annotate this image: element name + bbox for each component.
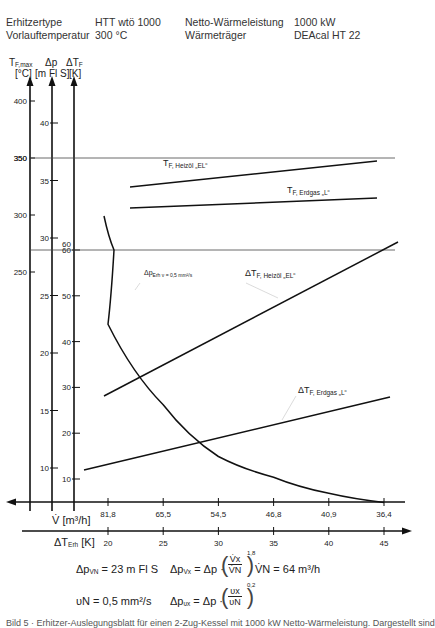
tick-label-dt-erh-25: 25 xyxy=(159,539,168,548)
tick-label-dp-35: 35 xyxy=(40,177,49,186)
tick-label-flow-0: 81,8 xyxy=(100,510,116,519)
formula-dp-vn: ΔpVN = 23 m Fl S xyxy=(76,563,158,575)
tick-label-dtf-50: 50 xyxy=(62,292,71,301)
tick-label-dt-erh-35: 35 xyxy=(269,539,278,548)
reference-label-350: 350 xyxy=(14,154,28,163)
formula-dp-nux: Δpυx = Δp · xyxy=(170,595,223,607)
tick-label-dp-10: 10 xyxy=(40,464,49,473)
series-line-3 xyxy=(104,242,398,396)
tick-label-dtf-40: 40 xyxy=(62,338,71,347)
x-axis-dt-erh-arrow xyxy=(402,528,412,535)
series-label-0: TF, Heizöl „EL“ xyxy=(163,158,208,169)
tick-label-flow-1: 65,5 xyxy=(155,510,171,519)
tick-label-dp-20: 20 xyxy=(40,349,49,358)
tick-label-dt-erh-45: 45 xyxy=(380,539,389,548)
tick-label-dt-erh-30: 30 xyxy=(214,539,223,548)
tick-label-flow-2: 54,5 xyxy=(211,510,227,519)
axis-title-dt-erh: ΔTErh [K] xyxy=(54,536,95,551)
series-line-1 xyxy=(130,198,377,208)
tick-label-flow-5: 36,4 xyxy=(376,510,392,519)
axis-title-flow: V̇ [m³/h] xyxy=(52,514,91,526)
tick-label-dtf-20: 20 xyxy=(62,429,71,438)
series-leader-3 xyxy=(246,283,278,298)
series-label-3: ΔTF, Heizöl „EL“ xyxy=(245,268,296,279)
tick-label-dp-25: 25 xyxy=(40,292,49,301)
series-line-2 xyxy=(104,216,384,503)
y-axis-dp-arrow xyxy=(49,76,56,86)
tick-label-tf-300: 300 xyxy=(14,211,28,220)
formula-vn: V̇N = 64 m³/h xyxy=(255,563,320,575)
tick-label-dt-erh-20: 20 xyxy=(104,539,113,548)
y-axis-dtf-arrow xyxy=(71,76,78,86)
formula-nu-n: υN = 0,5 mm²/s xyxy=(76,595,151,607)
series-label-1: TF, Erdgas „L“ xyxy=(287,185,330,197)
tick-label-tf-250: 250 xyxy=(14,268,28,277)
tick-label-dp-40: 40 xyxy=(40,119,49,128)
tick-label-dtf-30: 30 xyxy=(62,383,71,392)
tick-label-dp-30: 30 xyxy=(40,234,49,243)
tick-label-dtf-10: 10 xyxy=(62,475,71,484)
tick-label-flow-4: 40,9 xyxy=(321,510,337,519)
reference-label-60: 60 xyxy=(62,240,71,249)
formula-dp-vx: ΔpVx = Δp · xyxy=(170,563,224,575)
series-label-4: ΔTF, Erdgas „L“ xyxy=(298,385,347,397)
series-label-2: ΔpErh ν = 0,5 mm²/s xyxy=(144,269,193,278)
formula-exp1: 1,8 xyxy=(247,550,255,556)
tick-label-dp-15: 15 xyxy=(40,407,49,416)
figure-caption: Bild 5 · Erhitzer-Auslegungsblatt für ei… xyxy=(6,618,435,628)
tick-label-tf-400: 400 xyxy=(14,97,28,106)
series-leader-4 xyxy=(282,396,296,420)
series-line-4 xyxy=(84,397,390,470)
x-axis-flow-arrow xyxy=(6,499,16,506)
tick-label-dt-erh-40: 40 xyxy=(324,539,333,548)
tick-label-flow-3: 46,8 xyxy=(266,510,282,519)
y-axis-tf-max-arrow xyxy=(27,76,34,86)
formula-exp2: 0,2 xyxy=(247,582,255,588)
series-leader-2 xyxy=(135,283,140,290)
